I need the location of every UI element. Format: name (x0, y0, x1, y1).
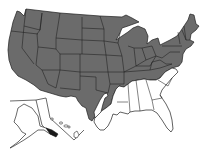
us-range-map (0, 0, 218, 155)
alaska-outline (10, 104, 56, 148)
